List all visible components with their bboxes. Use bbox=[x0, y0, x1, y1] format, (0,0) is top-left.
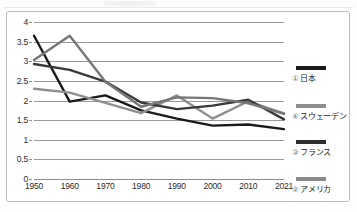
y-axis-tick-mark bbox=[29, 22, 32, 23]
x-axis-tick-label: 2010 bbox=[239, 181, 257, 191]
y-axis-tick-label: 2.5 bbox=[17, 76, 28, 86]
y-axis-tick-label: 0.5 bbox=[17, 154, 28, 164]
legend-item[interactable]: ③ フランス bbox=[292, 140, 356, 157]
scan-artifact-line bbox=[4, 7, 353, 8]
legend-item-number: ④ bbox=[292, 112, 300, 121]
y-axis-tick-mark bbox=[29, 61, 32, 62]
x-axis-tick-label: 1950 bbox=[25, 181, 43, 191]
y-axis-tick-mark bbox=[29, 42, 32, 43]
legend-item-label: ② アメリカ bbox=[292, 183, 356, 194]
line-series bbox=[34, 64, 284, 119]
legend-item-number: ① bbox=[292, 74, 300, 83]
y-axis-tick-label: 1 bbox=[23, 135, 28, 145]
legend-item[interactable]: ④ スウェーデン bbox=[292, 104, 356, 121]
y-axis-tick-label: 4 bbox=[23, 17, 28, 27]
x-axis-tick-label: 2000 bbox=[204, 181, 222, 191]
plot-area bbox=[34, 22, 284, 179]
y-axis-tick-mark bbox=[29, 179, 32, 180]
chart-legend: ① 日本④ スウェーデン③ フランス② アメリカ bbox=[292, 22, 354, 197]
legend-item-label: ③ フランス bbox=[292, 146, 356, 157]
legend-item-label: ① 日本 bbox=[292, 72, 356, 83]
line-series bbox=[34, 36, 284, 129]
y-axis-tick-label: 1.5 bbox=[17, 115, 28, 125]
y-axis-tick-mark bbox=[29, 101, 32, 102]
scan-artifact-smudge bbox=[104, 1, 156, 6]
y-axis-tick-mark bbox=[29, 120, 32, 121]
legend-item-label: ④ スウェーデン bbox=[292, 110, 356, 121]
legend-color-swatch bbox=[296, 177, 326, 181]
legend-item-number: ③ bbox=[292, 148, 300, 157]
legend-color-swatch bbox=[296, 140, 326, 144]
x-axis-tick-label: 1990 bbox=[168, 181, 186, 191]
y-axis-tick-label: 3 bbox=[23, 56, 28, 66]
legend-color-swatch bbox=[296, 104, 326, 108]
legend-color-swatch bbox=[296, 66, 326, 70]
x-axis-labels: 19501960197019801990200020102021 bbox=[34, 181, 284, 195]
y-axis-tick-label: 3.5 bbox=[17, 37, 28, 47]
y-axis-labels: 00.511.522.533.54 bbox=[0, 22, 32, 179]
gridline bbox=[34, 179, 284, 180]
line-series-group bbox=[34, 22, 284, 179]
y-axis-tick-mark bbox=[29, 140, 32, 141]
x-axis-tick-label: 1970 bbox=[96, 181, 114, 191]
y-axis-tick-mark bbox=[29, 81, 32, 82]
legend-item[interactable]: ② アメリカ bbox=[292, 177, 356, 194]
y-axis-tick-label: 2 bbox=[23, 96, 28, 106]
legend-item-number: ② bbox=[292, 185, 300, 194]
chart-page: 00.511.522.533.54 1950196019701980199020… bbox=[0, 0, 357, 212]
x-axis-tick-label: 2021 bbox=[275, 181, 293, 191]
x-axis-tick-label: 1960 bbox=[61, 181, 79, 191]
y-axis-tick-mark bbox=[29, 159, 32, 160]
legend-item[interactable]: ① 日本 bbox=[292, 66, 356, 83]
x-axis-tick-label: 1980 bbox=[132, 181, 150, 191]
